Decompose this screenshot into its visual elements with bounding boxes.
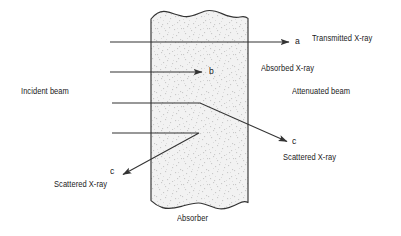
absorber-block <box>151 10 248 208</box>
label-absorber: Absorber <box>177 215 208 223</box>
label-transmitted-xray: Transmitted X-ray <box>312 35 372 43</box>
label-ray-c-right: c <box>292 136 296 145</box>
label-absorbed-xray: Absorbed X-ray <box>261 65 314 73</box>
label-ray-b: b <box>209 66 214 75</box>
label-scattered-xray-left: Scattered X-ray <box>54 181 107 189</box>
xray-attenuation-diagram: a Transmitted X-ray b Absorbed X-ray Inc… <box>0 0 401 236</box>
label-ray-c-left: c <box>110 166 114 175</box>
label-ray-a: a <box>295 36 300 45</box>
label-attenuated-beam: Attenuated beam <box>292 88 350 96</box>
label-scattered-xray-right: Scattered X-ray <box>283 154 336 162</box>
label-incident-beam: Incident beam <box>21 88 69 96</box>
